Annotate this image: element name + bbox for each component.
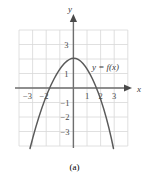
y-axis-label: y — [67, 4, 72, 14]
x-tick-labels: −3 −2 1 2 3 — [23, 91, 116, 101]
y-tick-label: −3 — [60, 127, 69, 137]
y-tick-label: 3 — [64, 40, 68, 50]
x-tick-label: 3 — [112, 91, 116, 101]
x-tick-label: 1 — [85, 91, 89, 101]
function-annotation: y = f(x) — [91, 62, 119, 72]
parabola-graph: −3 −2 1 2 3 3 1 −1 −2 −3 x y y = f(x) — [0, 0, 149, 178]
x-tick-label: −3 — [23, 91, 32, 101]
y-axis — [70, 14, 77, 148]
figure-panel: −3 −2 1 2 3 3 1 −1 −2 −3 x y y = f(x) (a… — [0, 0, 149, 178]
x-tick-label: 2 — [98, 91, 102, 101]
figure-caption: (a) — [70, 162, 80, 172]
x-axis-label: x — [136, 84, 141, 94]
y-tick-label: −2 — [60, 112, 69, 122]
y-tick-label: −1 — [60, 98, 69, 108]
x-tick-label: −2 — [39, 91, 48, 101]
figure-caption-row: (a) — [0, 156, 149, 174]
y-tick-label: 1 — [64, 69, 68, 79]
